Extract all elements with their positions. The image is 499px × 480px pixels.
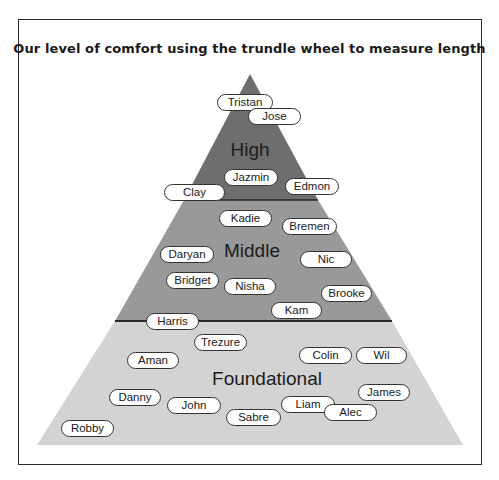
student-pill: Jazmin xyxy=(224,169,278,186)
tier-label-high: High xyxy=(230,139,269,161)
student-pill: Edmon xyxy=(285,178,339,195)
student-pill: Trezure xyxy=(194,334,247,351)
student-pill: Danny xyxy=(109,389,161,406)
student-pill: Nisha xyxy=(224,278,276,295)
student-pill: Kadie xyxy=(219,210,272,227)
student-pill: Alec xyxy=(324,404,377,421)
student-pill: Harris xyxy=(146,313,199,330)
student-pill: Bremen xyxy=(282,218,337,235)
student-pill: Nic xyxy=(300,251,352,268)
student-pill: Kam xyxy=(271,302,322,319)
tier-label-middle: Middle xyxy=(224,240,280,262)
student-pill: Robby xyxy=(61,420,114,437)
student-pill: John xyxy=(167,397,221,414)
student-pill: James xyxy=(358,384,410,401)
student-pill: Wil xyxy=(356,347,407,364)
student-pill: Clay xyxy=(164,184,225,201)
student-pill: Jose xyxy=(248,108,301,125)
student-pill: Daryan xyxy=(160,246,214,263)
student-pill: Brooke xyxy=(321,285,372,302)
student-pill: Sabre xyxy=(226,409,281,426)
student-pill: Aman xyxy=(127,352,179,369)
tier-label-foundational: Foundational xyxy=(212,368,322,390)
student-pill: Bridget xyxy=(166,272,219,289)
student-pill: Colin xyxy=(299,347,352,364)
